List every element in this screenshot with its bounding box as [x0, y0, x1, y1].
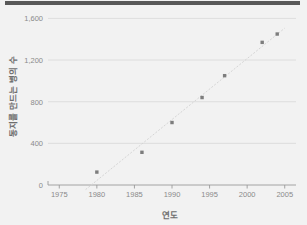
trend-line	[86, 28, 285, 189]
x-tick-label: 1975	[51, 190, 68, 199]
axes-group	[48, 181, 296, 189]
data-point[interactable]	[223, 74, 226, 77]
scatter-chart: 04008001,2001,600 1975198019851990199520…	[0, 0, 307, 225]
data-points-group	[95, 32, 279, 173]
y-tick-label: 1,200	[24, 56, 43, 65]
x-tick-label: 1985	[126, 190, 143, 199]
trend-line-group	[86, 28, 285, 189]
gridlines-group	[48, 18, 296, 143]
y-tick-label: 400	[30, 139, 43, 148]
x-tick-label: 1990	[164, 190, 181, 199]
y-tick-label: 1,600	[24, 14, 43, 23]
x-tick-label: 2005	[276, 190, 293, 199]
data-point[interactable]	[140, 151, 143, 154]
chart-canvas: 04008001,2001,600 1975198019851990199520…	[0, 0, 307, 225]
x-tick-label: 2000	[239, 190, 256, 199]
y-tick-labels-group: 04008001,2001,600	[24, 14, 43, 190]
x-tick-label: 1995	[201, 190, 218, 199]
data-point[interactable]	[260, 41, 263, 44]
data-point[interactable]	[95, 170, 98, 173]
y-tick-label: 800	[30, 98, 43, 107]
data-point[interactable]	[170, 121, 173, 124]
data-point[interactable]	[276, 32, 279, 35]
y-tick-label: 0	[39, 181, 43, 190]
x-axis-title: 연도	[162, 210, 178, 220]
x-tick-labels-group: 1975198019851990199520002005	[51, 190, 293, 199]
x-tick-label: 1980	[89, 190, 106, 199]
y-axis-title: 동지를 만드는 병의 수	[8, 56, 18, 137]
data-point[interactable]	[200, 96, 203, 99]
